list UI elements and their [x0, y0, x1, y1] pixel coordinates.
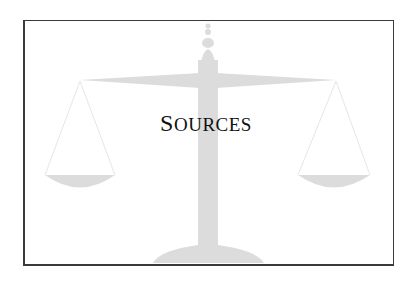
slide-title: SOURCES — [0, 111, 412, 135]
title-rest: OURCES — [174, 114, 252, 135]
scales-of-justice-icon — [0, 0, 412, 282]
title-initial: S — [160, 110, 174, 136]
